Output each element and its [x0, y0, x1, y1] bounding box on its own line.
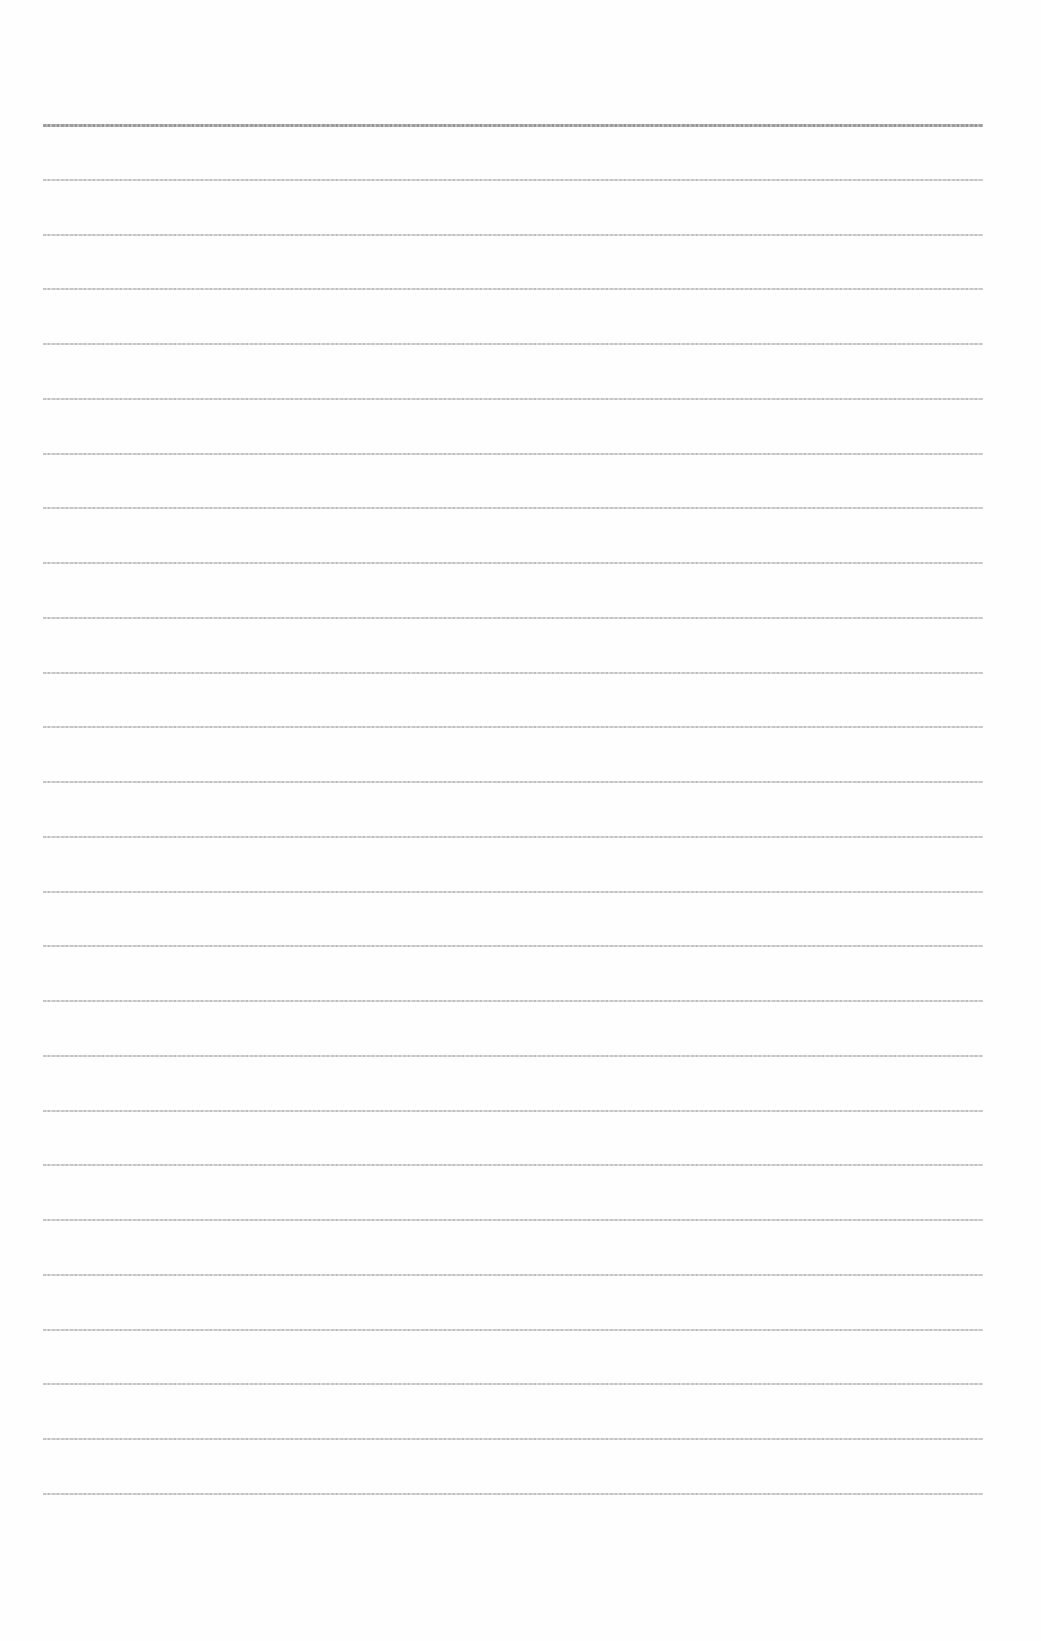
- rule-line: [43, 507, 983, 509]
- rule-line: [43, 672, 983, 674]
- rule-line: [43, 453, 983, 455]
- rule-line: [43, 288, 983, 290]
- rule-line: [43, 1438, 983, 1440]
- rule-line: [43, 945, 983, 947]
- rule-line: [43, 562, 983, 564]
- rule-line: [43, 781, 983, 783]
- rule-line: [43, 617, 983, 619]
- rule-line: [43, 836, 983, 838]
- rule-line: [43, 1164, 983, 1166]
- rule-line: [43, 1329, 983, 1331]
- rule-line: [43, 726, 983, 728]
- rule-line: [43, 1110, 983, 1112]
- lined-paper-page: [0, 0, 1041, 1641]
- top-rule-line: [43, 124, 983, 127]
- rule-line: [43, 1000, 983, 1002]
- rule-line: [43, 1493, 983, 1495]
- rule-line: [43, 179, 983, 181]
- rule-line: [43, 1219, 983, 1221]
- rule-line: [43, 343, 983, 345]
- rule-line: [43, 234, 983, 236]
- rule-line: [43, 891, 983, 893]
- rule-line: [43, 1383, 983, 1385]
- rule-line: [43, 398, 983, 400]
- rule-line: [43, 1055, 983, 1057]
- rule-line: [43, 1274, 983, 1276]
